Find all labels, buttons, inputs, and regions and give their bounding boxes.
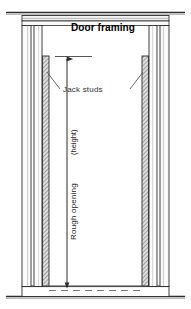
framing-drawing-svg	[0, 0, 191, 309]
rough-opening-label: Rough opening	[69, 183, 78, 240]
jack-studs-leader-right	[130, 72, 143, 89]
ceiling-line	[6, 13, 185, 15]
page-title: Door framing	[71, 22, 135, 33]
jack-stud-right-hatched	[142, 56, 149, 286]
jack-stud-right-outer	[149, 26, 157, 287]
king-stud-right	[160, 26, 169, 287]
jack-stud-left-outer	[34, 26, 42, 287]
rough-opening-height-label: (height)	[69, 130, 78, 155]
jack-studs-label: Jack studs	[63, 85, 103, 94]
king-stud-left	[22, 26, 31, 287]
jack-stud-left-hatched	[43, 56, 50, 286]
bottom-plate	[22, 286, 169, 297]
door-framing-diagram: Door framing Jack studs Rough opening (h…	[0, 0, 191, 309]
